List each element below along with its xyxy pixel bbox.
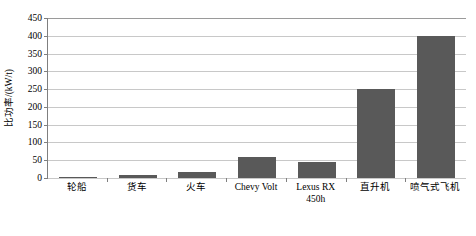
x-axis-label: Lexus RX450h <box>286 181 346 205</box>
y-axis-tick-label: 250 <box>28 84 42 94</box>
bar-slot <box>406 18 466 178</box>
plot-area: 450400350300250200150100500 <box>47 18 466 179</box>
bar-slot <box>227 18 287 178</box>
x-axis-label-line: Chevy Volt <box>235 182 278 192</box>
x-axis-label-line: 450h <box>286 193 346 205</box>
x-axis-label: 货车 <box>107 181 167 205</box>
y-axis-tick-label: 0 <box>37 173 42 183</box>
x-axis-label-line: 直升机 <box>360 182 390 192</box>
x-axis-label: 轮船 <box>47 181 107 205</box>
x-axis-label: Chevy Volt <box>226 181 286 205</box>
y-axis-tick-label: 50 <box>33 155 43 165</box>
x-axis-label-line: 喷气式飞机 <box>410 182 460 192</box>
y-axis-tick-label: 100 <box>28 137 42 147</box>
bar-chart: 比功率/(kW/t) 450400350300250200150100500 轮… <box>0 0 476 236</box>
bar[interactable] <box>238 157 276 178</box>
bar[interactable] <box>357 89 395 178</box>
bar-slot <box>167 18 227 178</box>
x-axis-label: 直升机 <box>346 181 406 205</box>
x-axis-label-line: Lexus RX <box>296 182 335 192</box>
x-axis-labels: 轮船货车火车Chevy VoltLexus RX450h直升机喷气式飞机 <box>47 181 465 205</box>
bars-layer <box>48 18 466 178</box>
x-axis-label-line: 轮船 <box>67 182 87 192</box>
bar[interactable] <box>59 177 97 178</box>
bar-slot <box>347 18 407 178</box>
y-axis-tick-label: 200 <box>28 102 42 112</box>
y-axis-tick-label: 300 <box>28 66 42 76</box>
x-axis-label-line: 火车 <box>186 182 206 192</box>
x-axis-label-line: 货车 <box>127 182 147 192</box>
y-axis-tick-label: 400 <box>28 31 42 41</box>
y-axis-title: 比功率/(kW/t) <box>2 18 16 178</box>
bar[interactable] <box>119 175 157 178</box>
bar-slot <box>108 18 168 178</box>
bar-slot <box>48 18 108 178</box>
bar[interactable] <box>298 162 336 178</box>
x-axis-label: 火车 <box>166 181 226 205</box>
y-axis-tick-label: 150 <box>28 120 42 130</box>
x-axis-label: 喷气式飞机 <box>405 181 465 205</box>
y-axis-tick-label: 350 <box>28 49 42 59</box>
bar[interactable] <box>178 172 216 178</box>
y-axis-tick <box>44 178 48 179</box>
y-axis-tick-label: 450 <box>28 13 42 23</box>
gridline <box>48 178 466 179</box>
bar[interactable] <box>417 36 455 178</box>
bar-slot <box>287 18 347 178</box>
